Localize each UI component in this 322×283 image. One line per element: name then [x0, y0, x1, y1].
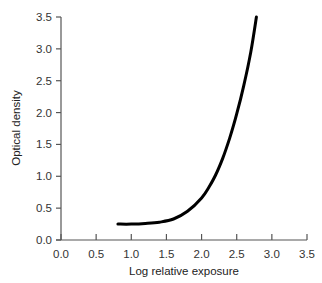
x-tick-label: 3.0 — [264, 248, 280, 260]
x-axis-label: Log relative exposure — [129, 265, 239, 277]
x-tick-label: 2.0 — [194, 248, 210, 260]
density-curve — [118, 17, 257, 224]
characteristic-curve-chart: 0.00.51.01.52.02.53.03.5 0.00.51.01.52.0… — [0, 0, 322, 283]
x-tick-label: 0.0 — [53, 248, 69, 260]
x-tick-label: 1.5 — [158, 248, 174, 260]
x-tick-label: 3.5 — [299, 248, 315, 260]
x-tick-label: 1.0 — [123, 248, 139, 260]
y-tick-label: 1.5 — [36, 138, 52, 150]
y-tick-label: 3.5 — [36, 11, 52, 23]
y-tick-label: 3.0 — [36, 43, 52, 55]
y-tick-label: 1.0 — [36, 170, 52, 182]
y-axis-label: Optical density — [10, 90, 22, 166]
x-tick-label: 2.5 — [229, 248, 245, 260]
y-tick-label: 0.0 — [36, 234, 52, 246]
y-tick-label: 2.5 — [36, 75, 52, 87]
y-tick-label: 0.5 — [36, 202, 52, 214]
x-tick-label: 0.5 — [88, 248, 104, 260]
y-axis: 0.00.51.01.52.02.53.03.5 — [36, 11, 61, 246]
x-axis: 0.00.51.01.52.02.53.03.5 — [53, 234, 315, 260]
y-tick-label: 2.0 — [36, 107, 52, 119]
